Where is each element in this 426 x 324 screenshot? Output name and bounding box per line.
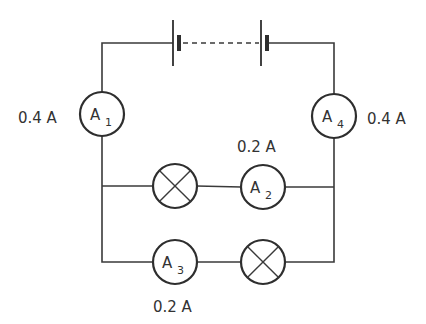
ammeter-a1: A 1: [80, 92, 124, 136]
a2-reading-label: 0.2 A: [237, 138, 277, 156]
lamp-icon: [153, 164, 197, 208]
ammeter-a2-subscript: 2: [265, 189, 272, 202]
lamp-icon: [241, 240, 285, 284]
ammeter-a1-subscript: 1: [105, 116, 112, 129]
upper-branch: A 2: [102, 164, 334, 209]
ammeter-a3-subscript: 3: [177, 264, 184, 277]
ammeter-a2-letter: A: [250, 179, 261, 197]
battery: [173, 20, 267, 66]
lower-branch: A 3: [153, 240, 285, 284]
a3-reading-label: 0.2 A: [153, 298, 193, 316]
main-wires: [102, 43, 334, 262]
ammeter-a1-letter: A: [90, 106, 101, 124]
ammeter-a3: A 3: [153, 240, 197, 284]
ammeter-a4: A 4: [312, 94, 356, 138]
ammeter-a4-subscript: 4: [337, 118, 344, 131]
ammeter-a2: A 2: [241, 165, 285, 209]
circuit-diagram: A 2 A 3 A 1 A 4 0.4 A 0.4 A 0.2 A 0.2 A: [0, 0, 426, 324]
a4-reading-label: 0.4 A: [367, 110, 407, 128]
ammeter-a4-letter: A: [322, 108, 333, 126]
ammeter-a3-letter: A: [162, 254, 173, 272]
a1-reading-label: 0.4 A: [18, 109, 58, 127]
